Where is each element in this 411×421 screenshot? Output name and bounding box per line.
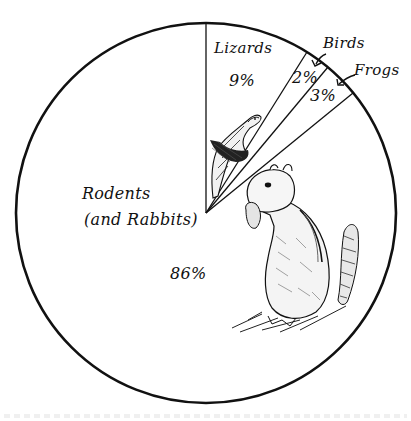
frogs-percent: 3% (310, 88, 336, 104)
birds-percent: 2% (292, 70, 318, 86)
frogs-label: Frogs (354, 63, 399, 78)
birds-label: Birds (323, 36, 365, 51)
scan-bleed-through (4, 414, 407, 418)
squirrel-illustration (232, 164, 359, 332)
rodents-label-line1: Rodents (82, 186, 150, 202)
rodents-percent: 86% (170, 266, 206, 282)
rodents-label-line2: (and Rabbits) (84, 212, 198, 228)
lizards-label: Lizards (214, 41, 272, 56)
pie-chart (0, 0, 411, 421)
lizards-percent: 9% (229, 73, 255, 89)
